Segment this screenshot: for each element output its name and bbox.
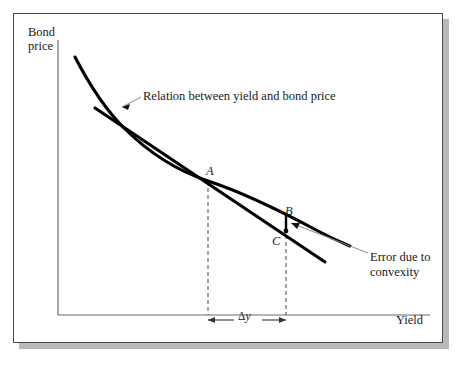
relation-annotation: Relation between yield and bond price	[143, 89, 336, 103]
price-yield-curve	[75, 57, 350, 246]
error-annotation: Error due to convexity	[370, 250, 454, 281]
relation-leader-line	[122, 97, 141, 110]
y-axis-label: Bond price	[28, 25, 74, 53]
y-axis-label-line2: price	[28, 39, 53, 53]
error-annotation-line1: Error due to	[370, 250, 430, 264]
delta-right-arrowhead	[279, 317, 286, 323]
x-axis-label: Yield	[396, 313, 423, 327]
tangent-line	[95, 108, 325, 262]
delta-variable: y	[245, 310, 250, 322]
point-c-dot	[284, 229, 289, 234]
delta-left-arrowhead	[208, 317, 215, 323]
price-yield-plot	[0, 0, 464, 369]
y-axis-label-line1: Bond	[28, 25, 55, 39]
point-label-c: C	[272, 234, 280, 248]
dashed-drop-lines	[208, 181, 286, 315]
delta-y-label: Δy	[238, 310, 251, 323]
point-label-a: A	[206, 164, 214, 178]
point-label-b: B	[285, 204, 293, 218]
error-annotation-line2: convexity	[370, 265, 419, 279]
figure-container: Bond price Yield Relation between yield …	[0, 0, 464, 369]
